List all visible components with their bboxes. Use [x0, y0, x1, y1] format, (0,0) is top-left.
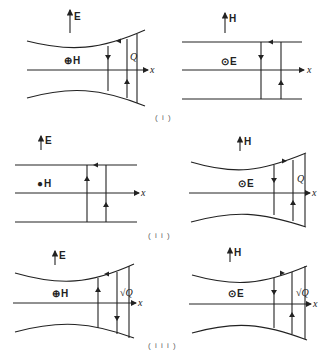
- panel-i-left: E x ⊕H Q: [27, 10, 155, 106]
- axis-label: x: [149, 64, 155, 75]
- waveguide-top-wall: [192, 266, 307, 282]
- arrow-left-icon: [268, 40, 273, 45]
- axis-label: x: [137, 297, 143, 308]
- field-up-label: E: [59, 250, 66, 261]
- panel-ii-left: E x ●H: [15, 135, 146, 222]
- field-up-label: H: [229, 13, 236, 24]
- axis-label: x: [311, 187, 317, 198]
- waveguide-bottom-wall: [192, 325, 307, 340]
- arrow-left-icon: [104, 272, 109, 277]
- caption-iii: ( i i i ): [148, 341, 177, 350]
- normal-field-label: ⊙E: [228, 288, 244, 299]
- caption-i: ( i ): [155, 113, 172, 122]
- arrow-down-icon: [114, 316, 120, 321]
- arrow-down-icon: [105, 55, 111, 60]
- q-label: Q: [130, 51, 138, 62]
- axis-label: x: [140, 187, 146, 198]
- normal-field-label: ⊕H: [64, 55, 80, 66]
- axis-label: x: [306, 64, 312, 75]
- normal-field-label: ⊕H: [52, 288, 68, 299]
- waveguide-top-wall: [15, 264, 134, 281]
- normal-field-symbol-icon: ⊕: [52, 288, 60, 299]
- axis-label: x: [312, 298, 318, 309]
- panel-iii-left: E x ⊕H √Q: [13, 250, 143, 338]
- waveguide-diagram: E x ⊕H Q H x ⊙E ( i ) E x ●H: [0, 0, 334, 364]
- caption-ii: ( i i ): [148, 231, 171, 240]
- arrow-down-icon: [258, 55, 264, 60]
- panel-i-right: H x ⊙E: [182, 13, 312, 99]
- arrow-right-icon: [282, 159, 287, 164]
- arrow-up-icon: [289, 312, 295, 317]
- q-label: √Q: [296, 287, 309, 298]
- field-up-label: E: [74, 11, 81, 22]
- field-up-label: H: [234, 247, 241, 258]
- arrow-up-icon: [124, 79, 130, 84]
- q-label: √Q: [120, 287, 133, 298]
- waveguide-bottom-wall: [15, 324, 134, 338]
- waveguide-top-wall: [191, 153, 306, 170]
- normal-field-symbol-icon: ⊙: [228, 288, 236, 299]
- arrow-up-icon: [84, 176, 90, 181]
- field-up-label: H: [244, 136, 251, 147]
- normal-field-symbol-icon: ●: [37, 178, 43, 189]
- arrow-down-icon: [271, 290, 277, 295]
- field-up-label: E: [45, 135, 52, 146]
- arrow-left-icon: [93, 163, 98, 168]
- arrow-up-icon: [278, 80, 284, 85]
- normal-field-label: ⊙E: [238, 178, 254, 189]
- q-label: Q: [297, 173, 305, 184]
- normal-field-symbol-icon: ⊕: [64, 55, 72, 66]
- normal-field-symbol-icon: ⊙: [221, 56, 229, 67]
- normal-field-symbol-icon: ⊙: [238, 178, 246, 189]
- arrow-up-icon: [103, 202, 109, 207]
- arrow-up-icon: [290, 200, 296, 205]
- arrow-left-icon: [116, 39, 121, 44]
- arrow-up-icon: [95, 287, 101, 292]
- waveguide-bottom-wall: [191, 214, 306, 227]
- normal-field-label: ●H: [37, 178, 51, 189]
- arrow-down-icon: [271, 178, 277, 183]
- panel-iii-right: H x ⊙E √Q: [189, 247, 318, 340]
- normal-field-label: ⊙E: [221, 56, 237, 67]
- panel-ii-right: H x ⊙E Q: [189, 136, 317, 227]
